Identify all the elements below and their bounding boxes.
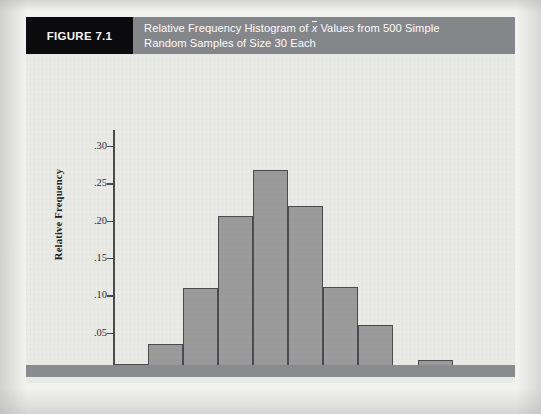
caption-text-part2: Values from 500 Simple <box>317 22 439 34</box>
y-tick-label: .05 <box>81 326 107 337</box>
figure-number-label: FIGURE 7.1 <box>47 30 113 42</box>
y-tick-label: .10 <box>81 289 107 300</box>
histogram-bar <box>113 364 148 365</box>
y-tick-mark <box>107 333 113 334</box>
figure-caption: Relative Frequency Histogram of x Values… <box>133 17 515 54</box>
histogram-plot: .30 .25 .20 .15 .10 <box>26 54 515 365</box>
histogram-bar <box>218 216 253 365</box>
y-tick-mark <box>107 183 113 184</box>
y-tick-mark <box>107 146 113 147</box>
figure-footer-bar <box>26 365 515 377</box>
y-tick-label: .20 <box>81 214 107 225</box>
histogram-bar <box>253 170 288 365</box>
y-tick-mark <box>107 258 113 259</box>
histogram-bar <box>323 287 358 366</box>
figure-caption-text: Relative Frequency Histogram of x Values… <box>144 21 439 49</box>
histogram-bar <box>148 344 183 365</box>
figure-header: FIGURE 7.1 Relative Frequency Histogram … <box>26 17 515 54</box>
page-background: FIGURE 7.1 Relative Frequency Histogram … <box>0 0 541 414</box>
y-axis-title: Relative Frequency <box>53 155 64 275</box>
y-tick-label: .15 <box>81 252 107 263</box>
chart-panel: .30 .25 .20 .15 .10 <box>26 54 515 365</box>
y-tick-label: .30 <box>81 139 107 150</box>
histogram-bar <box>183 288 218 365</box>
x-bar-symbol-caption: x <box>312 21 318 35</box>
histogram-bar <box>358 325 393 365</box>
caption-text-line2: Random Samples of Size 30 Each <box>144 37 316 49</box>
caption-text-part1: Relative Frequency Histogram of <box>144 22 312 34</box>
y-tick-mark <box>107 221 113 222</box>
figure-number-block: FIGURE 7.1 <box>26 17 133 54</box>
y-tick-label: .25 <box>81 177 107 188</box>
y-axis-line <box>113 130 115 365</box>
histogram-bar <box>288 206 323 365</box>
y-tick-mark <box>107 295 113 296</box>
histogram-bar <box>418 360 453 365</box>
figure-footer-under <box>26 377 515 383</box>
figure-block: FIGURE 7.1 Relative Frequency Histogram … <box>26 17 515 383</box>
